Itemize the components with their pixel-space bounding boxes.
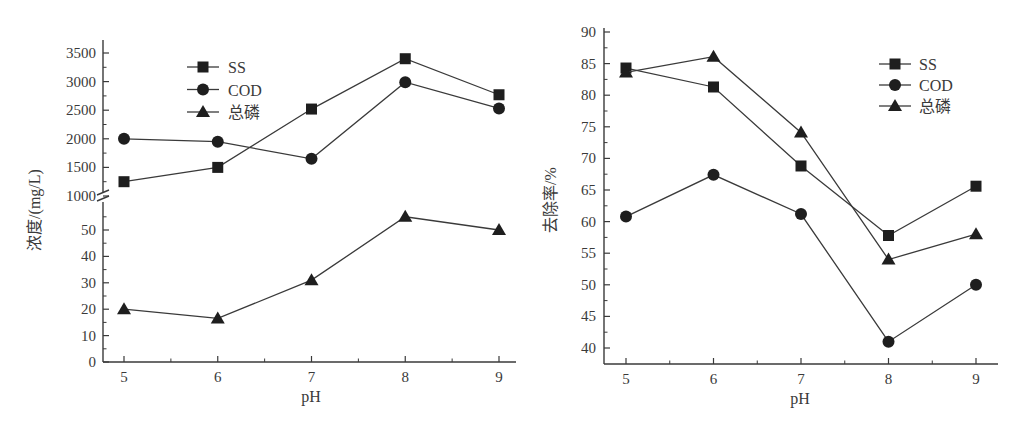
y-tick-label: 20 <box>81 301 96 317</box>
circle-marker-icon <box>493 102 505 114</box>
circle-marker-icon <box>970 279 982 291</box>
square-marker-icon <box>796 160 807 171</box>
y-tick-label: 55 <box>581 245 596 261</box>
series-line-circle <box>124 82 499 159</box>
y-tick-label: 2000 <box>66 131 96 147</box>
x-tick-label: 8 <box>885 371 893 387</box>
triangle-marker-icon <box>794 125 808 137</box>
left-chart-concentration: 1000150020002500300035000102030405056789… <box>26 40 516 406</box>
y-tick-label: 45 <box>581 308 596 324</box>
triangle-marker-icon <box>398 210 412 222</box>
x-tick-label: 7 <box>308 369 316 385</box>
y-tick-label: 65 <box>581 182 596 198</box>
y-tick-label: 80 <box>581 87 596 103</box>
right-chart-removal-rate: 404550556065707580859056789pH去除率/%SSCOD总… <box>542 24 998 408</box>
x-tick-label: 8 <box>402 369 410 385</box>
y-tick-label: 70 <box>581 150 596 166</box>
axis-break-mark <box>97 196 109 201</box>
x-tick-label: 9 <box>972 371 980 387</box>
circle-marker-icon <box>118 133 130 145</box>
legend-triangle-icon <box>888 99 902 111</box>
square-marker-icon <box>400 53 411 64</box>
figure-canvas: 1000150020002500300035000102030405056789… <box>0 0 1022 441</box>
y-tick-label: 85 <box>581 56 596 72</box>
legend-square-icon <box>198 62 209 73</box>
triangle-marker-icon <box>117 302 131 314</box>
triangle-marker-icon <box>707 50 721 62</box>
y-tick-label: 75 <box>581 119 596 135</box>
x-axis-title: pH <box>790 390 810 408</box>
legend-label: COD <box>919 77 953 94</box>
square-marker-icon <box>494 89 505 100</box>
x-axis-title: pH <box>301 388 321 406</box>
x-tick-label: 5 <box>120 369 128 385</box>
y-tick-label: 0 <box>89 354 97 370</box>
circle-marker-icon <box>212 136 224 148</box>
y-axis-title: 浓度/(mg/L) <box>26 169 44 251</box>
y-tick-label: 40 <box>581 340 596 356</box>
circle-marker-icon <box>620 211 632 223</box>
legend-label: SS <box>919 56 937 73</box>
y-tick-label: 1500 <box>66 159 96 175</box>
series-line-triangle <box>124 217 499 319</box>
legend-label: 总磷 <box>919 98 951 115</box>
square-marker-icon <box>212 162 223 173</box>
legend-circle-icon <box>889 79 901 91</box>
legend-label: SS <box>228 59 246 76</box>
circle-marker-icon <box>306 153 318 165</box>
triangle-marker-icon <box>305 273 319 285</box>
square-marker-icon <box>306 104 317 115</box>
x-tick-label: 6 <box>214 369 222 385</box>
y-axis-title: 去除率/% <box>542 167 559 233</box>
legend-circle-icon <box>197 84 209 96</box>
legend-label: 总磷 <box>228 104 260 121</box>
y-tick-label: 30 <box>81 275 96 291</box>
y-tick-label: 2500 <box>66 102 96 118</box>
y-tick-label: 1000 <box>66 188 96 204</box>
y-tick-label: 40 <box>81 248 96 264</box>
circle-marker-icon <box>883 336 895 348</box>
square-marker-icon <box>883 230 894 241</box>
circle-marker-icon <box>708 169 720 181</box>
square-marker-icon <box>119 176 130 187</box>
square-marker-icon <box>708 81 719 92</box>
x-tick-label: 7 <box>797 371 805 387</box>
y-tick-label: 50 <box>81 222 96 238</box>
series-line-circle <box>626 175 976 342</box>
x-tick-label: 5 <box>622 371 630 387</box>
square-marker-icon <box>971 181 982 192</box>
legend-square-icon <box>890 59 901 70</box>
y-tick-label: 10 <box>81 328 96 344</box>
x-tick-label: 9 <box>495 369 503 385</box>
legend-label: COD <box>228 82 262 99</box>
y-tick-label: 50 <box>581 277 596 293</box>
y-tick-label: 3000 <box>66 74 96 90</box>
circle-marker-icon <box>795 208 807 220</box>
x-tick-label: 6 <box>710 371 718 387</box>
circle-marker-icon <box>399 76 411 88</box>
y-tick-label: 90 <box>581 24 596 40</box>
y-tick-label: 3500 <box>66 45 96 61</box>
triangle-marker-icon <box>969 227 983 239</box>
legend-triangle-icon <box>196 105 210 117</box>
y-tick-label: 60 <box>581 214 596 230</box>
